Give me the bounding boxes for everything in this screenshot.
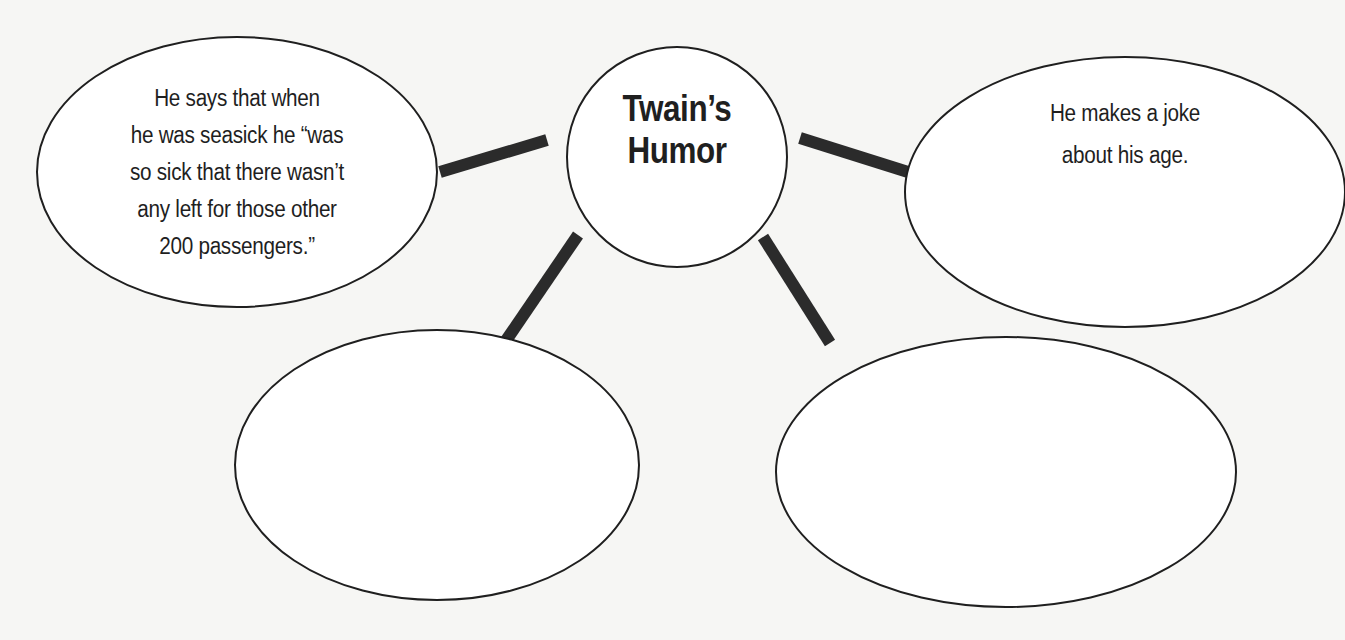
bubble-top-left-text: He says that when he was seasick he “was… (75, 80, 399, 265)
cluster-diagram: He says that when he was seasick he “was… (0, 0, 1345, 640)
center-topic: Twain’s Humor (592, 88, 762, 172)
text-line: He says that when (154, 80, 320, 117)
bubble-bottom-right (776, 337, 1236, 607)
connector-bottom-right (763, 237, 830, 343)
text-line: he was seasick he “was (131, 117, 344, 154)
text-line: about his age. (1062, 134, 1188, 176)
connector-top-left (440, 140, 547, 172)
bubble-bottom-left (235, 330, 639, 600)
connector-bottom-left (505, 235, 578, 342)
center-topic-line: Humor (627, 130, 726, 172)
text-line: any left for those other (137, 191, 336, 228)
text-line: 200 passengers.” (159, 228, 315, 265)
text-line: so sick that there wasn’t (130, 154, 344, 191)
center-topic-line: Twain’s (623, 88, 732, 130)
connector-top-right (800, 138, 908, 172)
text-line: He makes a joke (1050, 92, 1200, 134)
bubble-top-right-text: He makes a joke about his age. (968, 92, 1283, 176)
